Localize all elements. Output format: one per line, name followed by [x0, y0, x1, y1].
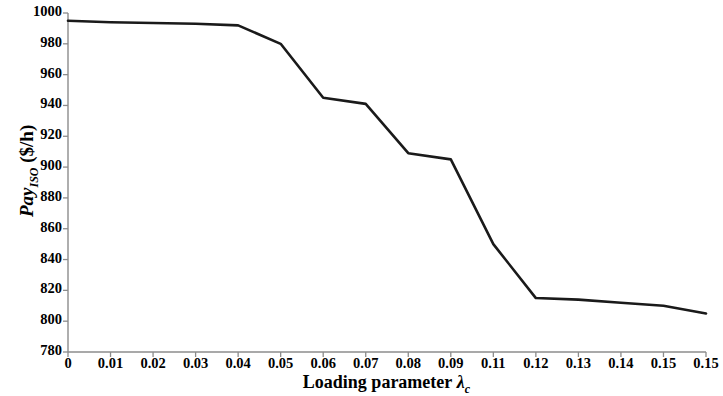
axes	[63, 13, 706, 357]
y-axis-tick-marks	[63, 13, 68, 352]
x-axis-title-subscript: c	[465, 382, 470, 396]
x-axis-tick-label: 0.15	[676, 355, 723, 372]
x-axis-title: Loading parameter λc	[68, 372, 705, 396]
x-axis-title-symbol: λ	[457, 372, 465, 392]
data-series-line	[68, 21, 706, 314]
x-axis-title-main: Loading parameter	[303, 372, 452, 392]
